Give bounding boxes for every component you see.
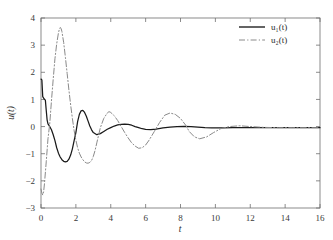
y-tick-label: −2 xyxy=(25,176,35,186)
x-tick-label: 2 xyxy=(74,213,79,223)
y-axis-label: u(t) xyxy=(6,106,17,120)
x-tick-label: 0 xyxy=(39,213,44,223)
y-tick-label: 3 xyxy=(31,40,36,50)
line-chart-svg: 0246810121416 −3−2−101234 t u(t) u₁(t)u₂… xyxy=(0,0,333,240)
x-tick-label: 4 xyxy=(109,213,114,223)
x-tick-label: 6 xyxy=(143,213,148,223)
x-tick-label: 10 xyxy=(211,213,221,223)
y-tick-label: 2 xyxy=(31,67,36,77)
legend-label-2: u₂(t) xyxy=(271,35,287,45)
x-tick-label: 8 xyxy=(178,213,183,223)
chart-figure: 0246810121416 −3−2−101234 t u(t) u₁(t)u₂… xyxy=(0,0,333,240)
x-axis-label: t xyxy=(179,224,182,234)
x-tick-label: 14 xyxy=(281,213,291,223)
y-tick-label: 1 xyxy=(31,95,36,105)
x-tick-label: 16 xyxy=(316,213,326,223)
legend-label-1: u₁(t) xyxy=(271,22,287,32)
y-tick-label: 0 xyxy=(31,122,36,132)
x-tick-label: 12 xyxy=(246,213,255,223)
y-tick-label: −3 xyxy=(25,203,35,213)
y-tick-label: 4 xyxy=(31,13,36,23)
y-tick-label: −1 xyxy=(25,149,35,159)
